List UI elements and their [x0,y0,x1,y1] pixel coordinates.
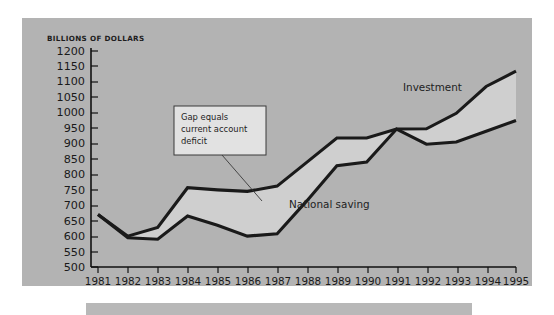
y-axis-title: BILLIONS OF DOLLARS [47,34,144,43]
callout-line-3: deficit [181,136,208,146]
x-tick-marks [98,267,516,273]
y-tick-label: 500 [64,261,85,274]
x-tick-label: 1989 [325,275,351,287]
x-tick-label: 1983 [145,275,171,287]
chart-plot: BILLIONS OF DOLLARS 1200 1150 1100 1050 … [0,0,554,315]
callout-line-1: Gap equals [181,112,228,122]
x-tick-label: 1992 [415,275,441,287]
x-tick-label: 1991 [385,275,411,287]
x-tick-label: 1987 [265,275,291,287]
y-tick-label: 650 [64,215,85,228]
investment-series-label: Investment [403,81,462,93]
y-tick-label: 550 [64,246,85,259]
y-tick-label: 1100 [57,75,85,88]
gap-area [98,71,516,239]
y-tick-marks [91,51,98,267]
y-tick-label: 600 [64,230,85,243]
y-tick-label: 900 [64,137,85,150]
y-tick-label: 950 [64,122,85,135]
y-tick-label: 1200 [57,45,85,58]
national-saving-series-label: National saving [289,198,370,210]
x-tick-label: 1982 [115,275,141,287]
x-tick-label: 1986 [235,275,261,287]
callout-line-2: current account [181,124,248,134]
x-tick-label: 1993 [445,275,471,287]
x-tick-label: 1985 [205,275,231,287]
x-tick-label: 1990 [355,275,381,287]
y-tick-label: 1150 [57,60,85,73]
y-tick-label: 850 [64,153,85,166]
y-tick-label: 750 [64,184,85,197]
y-tick-labels: 1200 1150 1100 1050 1000 950 900 850 800… [57,45,85,274]
x-tick-label: 1995 [503,275,529,287]
investment-line [98,71,516,236]
x-tick-label: 1984 [175,275,202,287]
y-tick-label: 800 [64,168,85,181]
y-tick-label: 700 [64,199,85,212]
chart-figure: BILLIONS OF DOLLARS 1200 1150 1100 1050 … [0,0,554,315]
x-tick-label: 1988 [295,275,321,287]
x-tick-label: 1994 [475,275,502,287]
y-tick-label: 1050 [57,91,85,104]
x-tick-label: 1981 [85,275,111,287]
x-tick-labels: 1981 1982 1983 1984 1985 1986 1987 1988 … [85,275,529,287]
y-tick-label: 1000 [57,106,85,119]
